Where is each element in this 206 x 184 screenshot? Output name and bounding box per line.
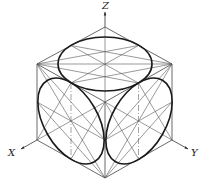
z-axis-label: Z — [101, 0, 110, 11]
x-axis — [21, 140, 37, 149]
isometric-cube-diagram: Z X Y — [0, 0, 206, 184]
x-axis-label: X — [7, 147, 16, 158]
y-axis — [172, 140, 188, 149]
y-axis-label: Y — [191, 147, 199, 158]
